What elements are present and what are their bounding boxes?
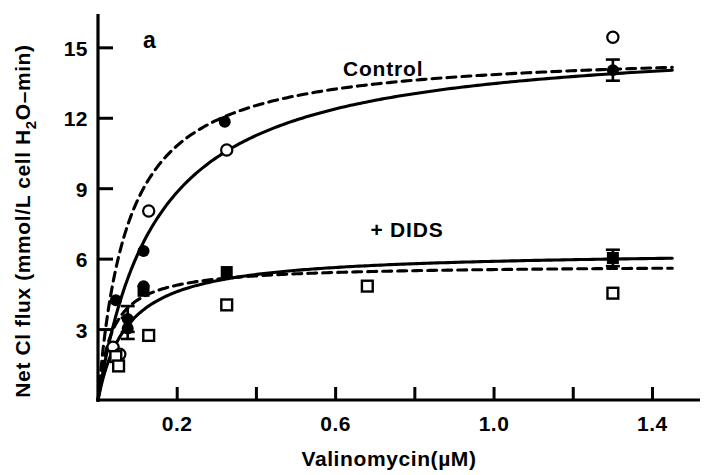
marker-open-square [221, 300, 232, 311]
marker-open-square [143, 330, 154, 341]
marker-filled-circle [219, 116, 231, 128]
y-tick-label: 12 [64, 107, 88, 130]
x-tick-label: 0.6 [320, 412, 351, 435]
chart-labels: 0.20.61.01.43691215Control+ DIDSaValinom… [11, 27, 668, 470]
marker-open-circle [143, 205, 154, 216]
series-open-square [110, 281, 618, 372]
marker-filled-circle [110, 294, 122, 306]
figure-panel-a: 0.20.61.01.43691215Control+ DIDSaValinom… [0, 0, 717, 475]
curve-dids-solid [98, 258, 672, 400]
y-axis-title: Net Cl flux (mmol/L cell H2O–min) [11, 44, 39, 397]
marker-filled-circle [607, 64, 619, 76]
data-points [107, 32, 619, 372]
y-tick-label: 3 [76, 319, 88, 342]
x-tick-label: 1.4 [637, 412, 668, 435]
marker-filled-square [607, 252, 619, 264]
x-tick-label: 0.2 [162, 412, 193, 435]
y-tick-label: 6 [76, 248, 88, 271]
svg-text:Net Cl flux (mmol/L cell H2O–m: Net Cl flux (mmol/L cell H2O–min) [11, 44, 39, 397]
marker-filled-square [138, 285, 150, 297]
marker-filled-square [221, 266, 233, 278]
panel-label: a [143, 27, 156, 53]
marker-filled-circle [122, 322, 134, 334]
y-tick-label: 15 [64, 37, 88, 60]
marker-filled-circle [138, 245, 150, 257]
chart-canvas: 0.20.61.01.43691215Control+ DIDSaValinom… [0, 0, 717, 475]
marker-open-circle [607, 32, 618, 43]
x-tick-label: 1.0 [479, 412, 510, 435]
marker-open-square [362, 281, 373, 292]
marker-open-square [607, 288, 618, 299]
series-open-circle [107, 32, 618, 360]
x-axis-title: Valinomycin(µM) [301, 447, 476, 470]
series-filled-square [138, 250, 620, 297]
annotation-label: + DIDS [370, 218, 443, 241]
annotation-label: Control [343, 57, 423, 80]
marker-open-circle [221, 144, 232, 155]
y-tick-label: 9 [76, 178, 88, 201]
marker-open-square [113, 361, 124, 372]
